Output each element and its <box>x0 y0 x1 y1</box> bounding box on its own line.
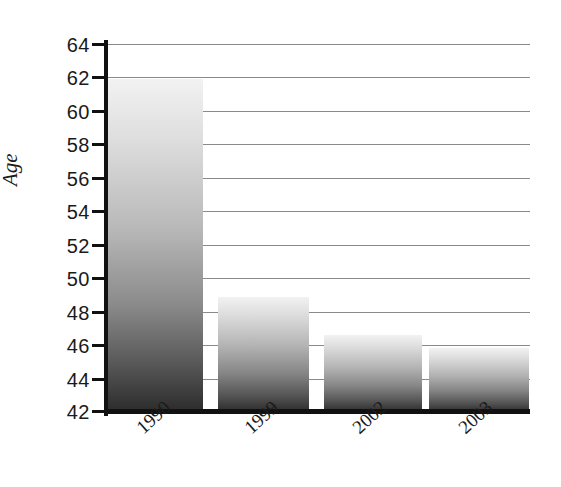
y-tick-mark-50 <box>92 277 106 280</box>
y-axis-title: Age <box>0 153 23 186</box>
y-axis-line <box>104 40 108 416</box>
gridline-64 <box>107 44 530 45</box>
y-tick-label-58: 58 <box>50 134 90 157</box>
y-tick-mark-58 <box>92 143 106 146</box>
y-tick-mark-48 <box>92 311 106 314</box>
y-tick-mark-62 <box>92 76 106 79</box>
y-tick-mark-54 <box>92 210 106 213</box>
y-tick-label-56: 56 <box>50 168 90 191</box>
y-tick-mark-44 <box>92 378 106 381</box>
y-tick-label-52: 52 <box>50 235 90 258</box>
y-tick-label-62: 62 <box>50 67 90 90</box>
bar-chart: 64 62 60 58 56 54 52 50 48 46 44 42 Age … <box>0 0 561 487</box>
bar-1990 <box>108 79 203 412</box>
y-tick-label-46: 46 <box>50 335 90 358</box>
y-tick-mark-46 <box>92 344 106 347</box>
y-tick-mark-42 <box>92 410 106 413</box>
y-tick-mark-64 <box>92 43 106 46</box>
plot-area <box>107 44 530 412</box>
y-tick-mark-52 <box>92 244 106 247</box>
y-tick-label-50: 50 <box>50 268 90 291</box>
y-tick-label-42: 42 <box>50 401 90 424</box>
gridline-62 <box>107 77 530 78</box>
y-tick-mark-56 <box>92 177 106 180</box>
y-tick-label-48: 48 <box>50 302 90 325</box>
y-tick-mark-60 <box>92 110 106 113</box>
y-tick-label-60: 60 <box>50 101 90 124</box>
y-tick-label-44: 44 <box>50 369 90 392</box>
y-tick-label-64: 64 <box>50 34 90 57</box>
bar-1999 <box>218 297 309 412</box>
y-tick-label-54: 54 <box>50 201 90 224</box>
